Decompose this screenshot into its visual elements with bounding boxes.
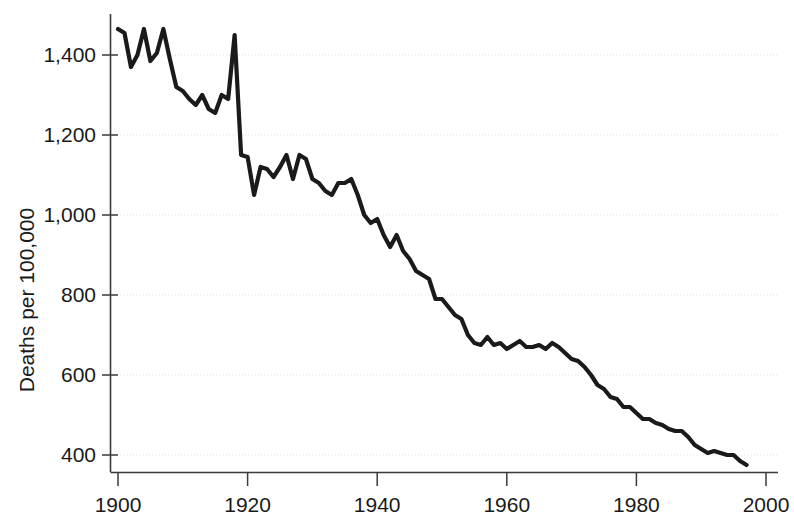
y-tick-label: 1,000 — [43, 203, 96, 226]
y-tick-label: 400 — [61, 443, 96, 466]
y-tick-label: 600 — [61, 363, 96, 386]
y-tick-label: 800 — [61, 283, 96, 306]
y-axis-ticks-group: 4006008001,0001,2001,400 — [43, 43, 118, 466]
y-axis-title: Deaths per 100,000 — [15, 208, 38, 392]
x-tick-label: 1900 — [95, 493, 142, 516]
x-tick-label: 2000 — [743, 493, 790, 516]
gridlines-group — [111, 55, 778, 455]
x-tick-label: 1980 — [613, 493, 660, 516]
x-tick-label: 1940 — [354, 493, 401, 516]
data-series-line — [118, 29, 747, 465]
mortality-line-chart: 4006008001,0001,2001,400 190019201940196… — [0, 0, 794, 532]
x-axis-ticks-group: 190019201940196019802000 — [95, 472, 790, 516]
chart-container: 4006008001,0001,2001,400 190019201940196… — [0, 0, 794, 532]
y-tick-label: 1,400 — [43, 43, 96, 66]
x-tick-label: 1920 — [224, 493, 271, 516]
y-tick-label: 1,200 — [43, 123, 96, 146]
x-tick-label: 1960 — [483, 493, 530, 516]
